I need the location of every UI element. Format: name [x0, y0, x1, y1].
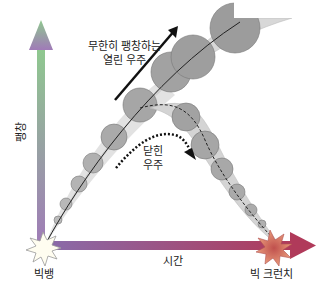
- x-axis-label: 시간: [163, 255, 183, 269]
- closed-universe-label: 닫힌 우주: [143, 145, 163, 173]
- open-universe-label: 무한히 팽창하는 열린 우주: [88, 40, 162, 68]
- closed-universe-band: [140, 103, 282, 248]
- y-axis-arrow: [29, 20, 53, 248]
- big-bang-label: 빅뱅: [34, 268, 54, 282]
- y-axis-label: 팽창: [15, 122, 29, 142]
- big-crunch-label: 빅 크런치: [250, 268, 294, 282]
- big-bang-burst-icon: [26, 232, 61, 266]
- universe-expansion-diagram: [0, 0, 334, 295]
